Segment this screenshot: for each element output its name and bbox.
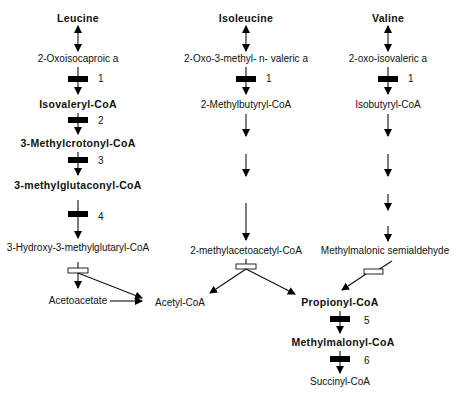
node-isovaleryl-coa: Isovaleryl-CoA [39,98,117,110]
enzyme-number: 5 [364,315,370,326]
open-box [364,269,383,274]
node-propionyl-coa: Propionyl-CoA [301,296,379,308]
node-methylmalonic-semialdehyde: Methylmalonic semialdehyde [321,245,450,256]
enzyme-number: 4 [98,211,104,222]
node-hmg-coa: 3-Hydroxy-3-methylglutaryl-CoA [7,242,150,253]
enzyme-block-bar [378,76,398,82]
node-leucine: Leucine [57,12,99,24]
enzyme-block-bar [236,76,256,82]
arrow-to-propionyl-coa [246,269,295,294]
enzyme-block-bar [330,356,350,362]
open-box [236,264,256,269]
enzyme-number: 1 [98,73,104,84]
enzyme-number: 3 [98,155,104,166]
enzyme-number: 1 [408,73,414,84]
enzyme-block-bar [68,211,88,217]
node-2-methylbutyryl-coa: 2-Methylbutyryl-CoA [201,99,292,110]
node-isoleucine: Isoleucine [219,12,273,24]
node-2-methylacetoacetyl-coa: 2-methylacetoacetyl-CoA [190,245,302,256]
node-acetyl-coa: Acetyl-CoA [155,297,205,308]
open-box [68,268,88,273]
node-valine: Valine [372,12,404,24]
pathway-diagram: Leucine 2-Oxoisocaproic a 1 Isovaleryl-C… [0,0,470,399]
node-isobutyryl-coa: Isobutyryl-CoA [355,99,421,110]
node-3-methylcrotonyl-coa: 3-Methylcrotonyl-CoA [20,137,135,149]
enzyme-block-bar [68,76,88,82]
node-methylmalonyl-coa: Methylmalonyl-CoA [291,336,394,348]
enzyme-block-bar [330,316,350,322]
enzyme-number: 1 [266,73,272,84]
node-3-methylglutaconyl-coa: 3-methylglutaconyl-CoA [14,179,141,191]
enzyme-block-bar [68,157,88,163]
arrow-to-propionyl-coa [342,274,366,290]
node-2-oxoisocaproic: 2-Oxoisocaproic a [38,53,119,64]
pathway-svg: Leucine 2-Oxoisocaproic a 1 Isovaleryl-C… [0,0,470,399]
enzyme-number: 6 [364,355,370,366]
enzyme-block-bar [68,117,88,123]
node-2-oxo-3-methyl-valeric: 2-Oxo-3-methyl- n- valeric a [184,53,308,64]
node-acetoacetate: Acetoacetate [49,295,108,306]
node-succinyl-coa: Succinyl-CoA [310,376,370,387]
enzyme-number: 2 [98,115,104,126]
arrow-to-acetyl-coa [210,269,246,293]
node-2-oxo-isovaleric: 2-oxo-isovaleric a [349,53,428,64]
